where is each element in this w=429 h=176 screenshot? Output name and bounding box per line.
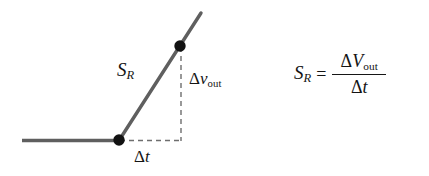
run-label-delta-t: Δt — [134, 148, 150, 165]
equation-numerator: ΔVout — [338, 52, 381, 74]
rise-label-subscript: out — [207, 77, 221, 89]
lower-vertex-dot — [113, 134, 124, 145]
slew-rate-equation: SR = ΔVout Δt — [294, 52, 386, 96]
equation-denominator-delta: Δ — [351, 77, 363, 97]
equation-equals-sign: = — [316, 65, 326, 83]
figure-root: SR Δvout Δt SR = ΔVout Δt — [0, 0, 429, 176]
slope-label-symbol: S — [117, 59, 127, 80]
slope-label-subscript: R — [127, 68, 135, 82]
equation-denominator: Δt — [348, 75, 371, 96]
equation-lhs-subscript: R — [304, 71, 312, 85]
equation-numerator-subscript: out — [363, 60, 378, 72]
rise-label-delta: Δ — [189, 69, 200, 88]
slope-label-sr: SR — [117, 60, 134, 82]
equation-fraction: ΔVout Δt — [332, 52, 386, 96]
run-label-symbol: t — [145, 147, 150, 166]
rise-label-delta-v-out: Δvout — [189, 70, 221, 88]
equation-denominator-symbol: t — [363, 77, 368, 97]
equation-numerator-symbol: V — [352, 51, 363, 71]
equation-lhs-symbol: S — [294, 62, 304, 83]
upper-vertex-dot — [174, 40, 185, 51]
run-label-delta: Δ — [134, 147, 145, 166]
equation-lhs: SR — [294, 63, 311, 85]
equation-numerator-delta: Δ — [341, 51, 353, 71]
